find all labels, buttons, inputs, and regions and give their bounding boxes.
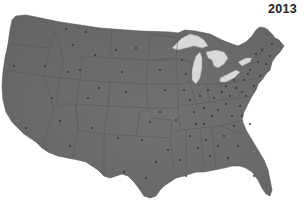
us-map bbox=[0, 0, 306, 211]
us-landmass bbox=[2, 15, 284, 198]
